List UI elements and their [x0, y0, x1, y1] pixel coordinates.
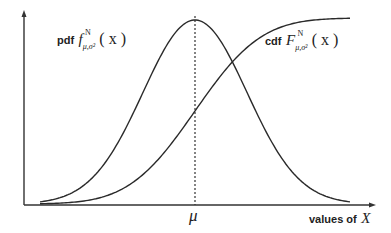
pdf-superscript: N	[85, 28, 91, 37]
cdf-superscript: N	[297, 29, 303, 38]
cdf-arg: ( x )	[312, 31, 339, 48]
x-axis-arrow-icon	[369, 203, 376, 208]
x-axis-label: values of X	[309, 209, 370, 227]
x-axis-label-var: X	[361, 210, 370, 226]
y-axis-arrow-icon	[22, 10, 27, 17]
normal-distribution-figure: pdf fμ,σ²N ( x ) cdf Fμ,σ²N ( x ) μ valu…	[0, 0, 391, 233]
cdf-label: cdf Fμ,σ²N ( x )	[265, 31, 338, 49]
cdf-subscript: μ,σ²	[295, 43, 307, 52]
cdf-func: F	[286, 32, 295, 48]
pdf-label: pdf fμ,σ²N ( x )	[57, 30, 126, 48]
cdf-prefix: cdf	[265, 35, 282, 47]
x-axis-label-text: values of	[309, 213, 357, 225]
pdf-subscript: μ,σ²	[83, 42, 95, 51]
pdf-prefix: pdf	[57, 34, 74, 46]
mu-tick-label: μ	[189, 206, 198, 226]
pdf-arg: ( x )	[99, 30, 126, 47]
